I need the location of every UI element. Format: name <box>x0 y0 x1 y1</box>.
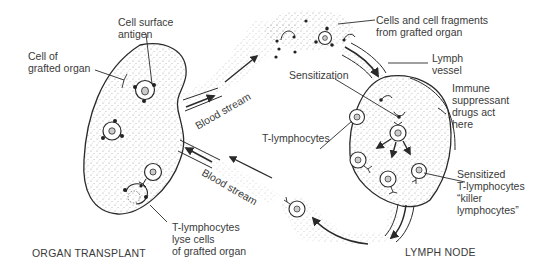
label-line: “killer <box>457 192 525 204</box>
label-cell-surface-antigen: Cell surface antigen <box>118 16 173 40</box>
label-line: from grafted organ <box>376 26 488 38</box>
caption-organ-transplant: ORGAN TRANSPLANT <box>32 247 146 259</box>
label-line: Immune <box>452 82 509 94</box>
t-lymphocyte-resting <box>350 110 365 125</box>
label-line: T-lymphocytes <box>457 180 525 192</box>
organ-transplant <box>84 44 186 214</box>
label-line: suppressant <box>452 94 509 106</box>
label-line: drugs act <box>452 106 509 118</box>
label-line: lymphocytes” <box>457 204 525 216</box>
label-line: lyse cells <box>172 233 246 245</box>
label-line: vessel <box>432 64 463 76</box>
label-cell-of-grafted-organ: Cell of grafted organ <box>28 50 90 74</box>
label-t-lymphocytes: T-lymphocytes <box>262 132 330 144</box>
label-cells-and-fragments: Cells and cell fragments from grafted or… <box>376 14 488 38</box>
label-line: T-lymphocytes <box>262 132 330 144</box>
label-t-lymphocytes-lyse: T-lymphocytes lyse cells of grafted orga… <box>172 221 246 257</box>
label-line: Cells and cell fragments <box>376 14 488 26</box>
label-sensitization: Sensitization <box>289 69 349 81</box>
label-immune-suppressant: Immune suppressant drugs act here <box>452 82 509 130</box>
label-line: Cell surface <box>118 16 173 28</box>
caption-lymph-node: LYMPH NODE <box>405 246 476 258</box>
label-line: Sensitized <box>457 168 525 180</box>
label-sensitized-t-lymphocytes: Sensitized T-lymphocytes “killer lymphoc… <box>457 168 525 216</box>
label-line: Cell of <box>28 50 90 62</box>
label-line: here <box>452 118 509 130</box>
label-line: Lymph <box>432 52 463 64</box>
label-line: of grafted organ <box>172 245 246 257</box>
label-line: Sensitization <box>289 69 349 81</box>
lymph-node <box>350 76 456 207</box>
label-lymph-vessel: Lymph vessel <box>432 52 463 76</box>
label-line: antigen <box>118 28 173 40</box>
label-line: T-lymphocytes <box>172 221 246 233</box>
label-line: grafted organ <box>28 62 90 74</box>
